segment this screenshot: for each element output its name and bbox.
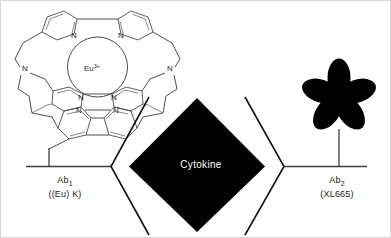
nitrogen-atom-label: N <box>22 64 28 73</box>
tr-fret-assay-figure: N N N N Eu3+ <box>0 0 391 238</box>
nitrogen-atom-label: N <box>167 64 173 73</box>
antibody-2-name: Ab2 <box>289 175 385 189</box>
figure-canvas: N N N N Eu3+ <box>1 1 391 238</box>
phenanthroline-lower-unit: N N N N <box>29 87 166 139</box>
cytokine-label: Cytokine <box>131 159 271 170</box>
antibody-1-caption: Ab1 ((Eu) K) <box>15 175 115 200</box>
eu-ion-label: Eu3+ <box>84 63 100 74</box>
cryptate-linker-bond <box>49 139 69 149</box>
antibody-2-acceptor <box>245 59 379 236</box>
antibody-1-name: Ab1 <box>15 175 115 189</box>
antibody-2-caption: Ab2 (XL665) <box>289 175 385 200</box>
xl665-fluorophore-flower <box>299 59 379 135</box>
nitrogen-atom-label: N <box>118 31 124 40</box>
antibody-1-tag: ((Eu) K) <box>15 189 115 200</box>
nitrogen-atom-label: N <box>71 31 77 40</box>
europium-cryptate-structure: N N N N Eu3+ <box>15 11 180 149</box>
antibody-2-tag: (XL665) <box>289 189 385 200</box>
nitrogen-atom-label: N <box>111 93 117 102</box>
